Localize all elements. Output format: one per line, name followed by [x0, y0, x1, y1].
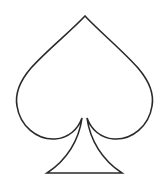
spade-outline	[17, 16, 153, 173]
spade-canvas: spade	[0, 0, 161, 181]
spade-icon	[0, 0, 161, 181]
